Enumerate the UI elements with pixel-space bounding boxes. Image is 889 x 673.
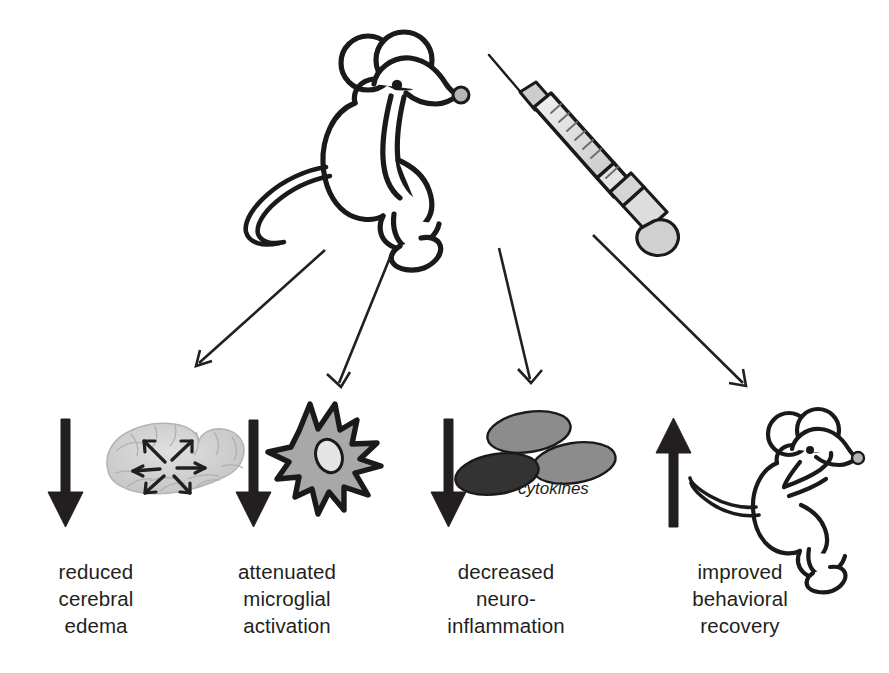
figure-text-layer: cytokines reduced cerebral edema attenua… — [0, 0, 889, 673]
outcome-caption-improved-behavioral-recovery: improved behavioral recovery — [640, 558, 840, 639]
outcome-caption-decreased-neuroinflammation: decreased neuro- inflammation — [406, 558, 606, 639]
outcome-caption-attenuated-microglial-activation: attenuated microglial activation — [188, 558, 386, 639]
neuroprotection-outcomes-figure: cytokines reduced cerebral edema attenua… — [0, 0, 889, 673]
cytokines-annotation: cytokines — [518, 479, 589, 499]
outcome-caption-reduced-cerebral-edema: reduced cerebral edema — [0, 558, 192, 639]
